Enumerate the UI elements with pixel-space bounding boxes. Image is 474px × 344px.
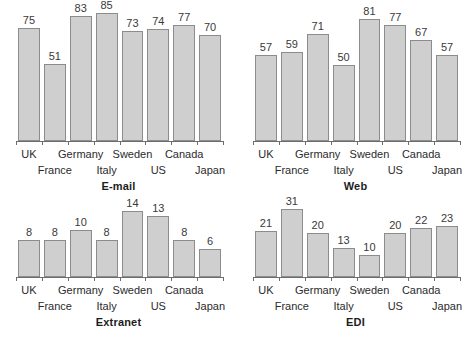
bar-slot: 21: [253, 202, 279, 277]
axis-tick: [171, 141, 172, 145]
category-label: Sweden: [350, 282, 390, 298]
x-axis-ticks-extranet: [16, 277, 223, 281]
bar: [147, 29, 169, 141]
bar-slot: 20: [382, 202, 408, 277]
category-label: Germany: [295, 146, 340, 162]
bar-value-label: 13: [331, 234, 357, 246]
chart-figure: 7551838573747770 UKGermanySwedenCanada F…: [0, 0, 474, 344]
bar-value-label: 57: [253, 41, 279, 53]
bar-value-label: 71: [305, 20, 331, 32]
x-axis-edi: [253, 277, 460, 278]
bar-slot: 83: [68, 8, 94, 141]
category-label: Germany: [58, 282, 103, 298]
axis-tick: [305, 277, 306, 281]
bar-value-label: 51: [42, 50, 68, 62]
category-labels-edi: UKGermanySwedenCanada FranceItalyUSJapan: [253, 282, 460, 314]
panel-title-extranet: Extranet: [0, 316, 237, 328]
bar-value-label: 77: [171, 11, 197, 23]
axis-tick: [145, 141, 146, 145]
axis-tick: [382, 141, 383, 145]
bar-value-label: 31: [279, 195, 305, 207]
bar: [173, 25, 195, 141]
bar-value-label: 77: [382, 11, 408, 23]
bar: [384, 25, 406, 141]
bar-slot: 13: [145, 202, 171, 277]
bar-value-label: 10: [357, 241, 383, 253]
axis-tick: [253, 141, 254, 145]
bar: [359, 255, 381, 277]
bar-value-label: 21: [253, 217, 279, 229]
bar-slot: 8: [94, 202, 120, 277]
axis-tick: [253, 277, 254, 281]
category-row-lower: FranceItalyUSJapan: [253, 298, 460, 314]
bar-value-label: 13: [145, 202, 171, 214]
category-label: Canada: [402, 282, 441, 298]
axis-tick: [42, 277, 43, 281]
axis-tick: [357, 277, 358, 281]
category-label: US: [151, 298, 166, 314]
bar-slot: 8: [16, 202, 42, 277]
axis-tick: [357, 141, 358, 145]
bar-value-label: 81: [357, 5, 383, 17]
axis-tick: [197, 277, 198, 281]
x-axis-email: [16, 141, 223, 142]
category-label: Italy: [333, 298, 353, 314]
axis-tick: [223, 141, 224, 145]
axis-tick: [279, 141, 280, 145]
chart-panel-web: 5759715081776757 UKGermanySwedenCanada F…: [237, 0, 474, 172]
bar: [436, 226, 458, 277]
category-label: US: [388, 298, 403, 314]
bar: [410, 228, 432, 277]
axis-tick: [223, 277, 224, 281]
bar-value-label: 8: [42, 226, 68, 238]
bar-slot: 70: [197, 8, 223, 141]
bar: [359, 19, 381, 141]
bar: [307, 233, 329, 277]
category-labels-extranet: UKGermanySwedenCanada FranceItalyUSJapan: [16, 282, 223, 314]
bar-value-label: 67: [408, 26, 434, 38]
bar: [199, 35, 221, 141]
bar: [255, 55, 277, 141]
bar-slot: 73: [120, 8, 146, 141]
category-label: Germany: [295, 282, 340, 298]
bar: [96, 240, 118, 278]
bar-slot: 23: [434, 202, 460, 277]
bar: [147, 216, 169, 277]
category-label: UK: [258, 282, 273, 298]
bar-value-label: 14: [120, 197, 146, 209]
bar-group-extranet: 88108141386: [16, 202, 223, 277]
bar-group-edi: 2131201310202223: [253, 202, 460, 277]
axis-tick: [331, 277, 332, 281]
bar-value-label: 8: [171, 226, 197, 238]
category-row-upper: UKGermanySwedenCanada: [16, 146, 223, 162]
plot-area-edi: 2131201310202223: [253, 202, 460, 277]
bar-slot: 77: [382, 8, 408, 141]
bar: [333, 65, 355, 141]
bar-slot: 75: [16, 8, 42, 141]
bar-slot: 50: [331, 8, 357, 141]
bar-value-label: 6: [197, 235, 223, 247]
axis-tick: [120, 141, 121, 145]
bar-slot: 57: [253, 8, 279, 141]
category-label: France: [38, 298, 72, 314]
axis-tick: [145, 277, 146, 281]
axis-tick: [460, 141, 461, 145]
category-row-upper: UKGermanySwedenCanada: [253, 282, 460, 298]
bar-value-label: 83: [68, 2, 94, 14]
bar-slot: 67: [408, 8, 434, 141]
axis-tick: [279, 277, 280, 281]
axis-tick: [460, 277, 461, 281]
category-label: Canada: [165, 282, 204, 298]
panel-title-edi: EDI: [237, 316, 474, 328]
bar: [18, 240, 40, 278]
bar-value-label: 70: [197, 21, 223, 33]
x-axis-ticks-edi: [253, 277, 460, 281]
axis-tick: [68, 277, 69, 281]
bar-value-label: 8: [94, 226, 120, 238]
axis-tick: [42, 141, 43, 145]
bar-slot: 8: [171, 202, 197, 277]
chart-panel-edi: 2131201310202223 UKGermanySwedenCanada F…: [237, 172, 474, 344]
plot-area-email: 7551838573747770: [16, 8, 223, 141]
chart-panel-extranet: 88108141386 UKGermanySwedenCanada France…: [0, 172, 237, 344]
bar-value-label: 73: [120, 17, 146, 29]
